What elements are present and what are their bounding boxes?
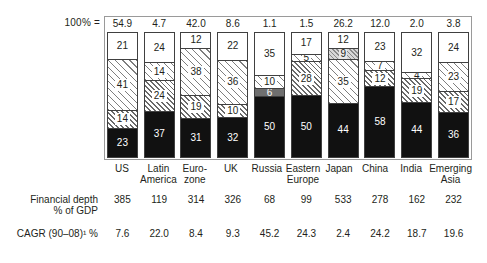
- category-label: Euro-zone: [177, 161, 213, 185]
- stacked-bar: 3241944: [401, 32, 432, 158]
- bar-segment-value: 7: [376, 62, 384, 71]
- bar-segment: 19: [402, 79, 431, 103]
- bar-segment: 7: [365, 62, 394, 71]
- cagr-value: 22.0: [141, 228, 178, 239]
- bar-segment: 38: [181, 49, 210, 96]
- category-label-line: Russia: [249, 163, 285, 174]
- category-label: China: [357, 161, 393, 185]
- bar-segment: 19: [181, 96, 210, 120]
- bar-segment-value: 23: [117, 138, 128, 148]
- bar-segment: 14: [145, 63, 174, 81]
- bar-segment-value: 38: [189, 67, 202, 77]
- financial-depth-value: 99: [288, 194, 325, 216]
- category-row: USLatinAmericaEuro-zoneUKRussiaEasternEu…: [0, 161, 487, 185]
- bar-segment-value: 12: [338, 35, 349, 45]
- cagr-label-line1: CAGR (90–08)¹ %: [0, 228, 98, 239]
- category-label-line: Eastern: [285, 163, 321, 174]
- data-table: USLatinAmericaEuro-zoneUKRussiaEasternEu…: [0, 161, 487, 239]
- financial-depth-label-line2: % of GDP: [0, 205, 98, 216]
- cagr-label: CAGR (90–08)¹ %: [0, 228, 104, 239]
- bar-segment: 32: [218, 118, 247, 157]
- bar-segment-value: 24: [448, 43, 459, 53]
- category-label-line: Emerging: [429, 163, 472, 174]
- bar-segment-value: 17: [301, 38, 312, 48]
- bar-column: 42.012381931: [178, 16, 215, 160]
- bar-total-value: 12.0: [370, 16, 389, 32]
- financial-depth-value: 232: [435, 194, 472, 216]
- category-label: Russia: [249, 161, 285, 185]
- category-label-line: Japan: [321, 163, 357, 174]
- bar-segment-value: 24: [154, 43, 165, 53]
- category-label-line: China: [357, 163, 393, 174]
- bar-segment: 23: [439, 63, 468, 92]
- bar-segment: 12: [181, 33, 210, 49]
- bar-column: 26.21293544: [325, 16, 362, 160]
- cagr-value: 24.3: [288, 228, 325, 239]
- bar-total-value: 26.2: [333, 16, 352, 32]
- financial-depth-value: 385: [104, 194, 141, 216]
- bar-segment: 44: [402, 103, 431, 157]
- stacked-bar: 21411423: [107, 32, 138, 158]
- stacked-bar: 3510650: [254, 32, 285, 158]
- bar-segment: 50: [292, 96, 321, 157]
- bar-column: 2.03241944: [398, 16, 435, 160]
- bar-segment-value: 58: [374, 117, 385, 127]
- category-label-line: Latin: [140, 163, 177, 174]
- bar-segment-value: 37: [154, 129, 165, 139]
- bar-segment-value: 19: [410, 86, 423, 96]
- financial-depth-value: 278: [362, 194, 399, 216]
- bar-total-value: 1.1: [263, 16, 277, 32]
- bar-segment-value: 44: [338, 125, 349, 135]
- bar-segment: 24: [145, 33, 174, 63]
- cagr-value: 8.4: [178, 228, 215, 239]
- bar-column: 1.13510650: [251, 16, 288, 160]
- bar-segment-value: 10: [226, 106, 239, 116]
- category-label: India: [393, 161, 429, 185]
- category-label-line: Euro-: [177, 163, 213, 174]
- stacked-bar: 24142437: [144, 32, 175, 158]
- bar-segment-value: 41: [116, 80, 129, 90]
- bar-segment-value: 12: [373, 74, 386, 84]
- bar-column: 54.921411423: [104, 16, 141, 160]
- bar-segment-value: 28: [300, 74, 313, 84]
- category-label: UK: [213, 161, 249, 185]
- category-row-label: [0, 161, 104, 185]
- axis-total-label: 100% =: [38, 17, 100, 28]
- cagr-value: 24.2: [362, 228, 399, 239]
- financial-depth-value: 68: [251, 194, 288, 216]
- cagr-value: 9.3: [214, 228, 251, 239]
- cagr-value: 19.6: [435, 228, 472, 239]
- stacked-bar-columns: 54.9214114234.72414243742.0123819318.622…: [104, 16, 472, 160]
- category-label: US: [104, 161, 140, 185]
- financial-depth-row: Financial depth % of GDP 385119314326689…: [0, 194, 487, 216]
- category-label-line: UK: [213, 163, 249, 174]
- bar-total-value: 3.8: [447, 16, 461, 32]
- category-label-line: America: [140, 174, 177, 185]
- category-label: EasternEurope: [285, 161, 321, 185]
- category-label-line: zone: [177, 174, 213, 185]
- bar-segment: 22: [218, 33, 247, 61]
- bar-segment-value: 31: [190, 133, 201, 143]
- financial-depth-value: 533: [325, 194, 362, 216]
- bar-segment-value: 9: [339, 49, 347, 59]
- bar-segment: 23: [108, 129, 137, 157]
- bar-segment-value: 12: [190, 35, 201, 45]
- bar-segment: 23: [365, 33, 394, 62]
- bar-total-value: 1.5: [299, 16, 313, 32]
- bar-segment-value: 22: [227, 41, 238, 51]
- financial-depth-value: 119: [141, 194, 178, 216]
- bar-total-value: 4.7: [152, 16, 166, 32]
- chart-root: 100% = 54.9214114234.72414243742.0123819…: [0, 0, 487, 263]
- bar-segment-value: 10: [263, 77, 276, 87]
- bar-segment: 36: [218, 61, 247, 106]
- stacked-bar: 1293544: [328, 32, 359, 158]
- bar-column: 1.51752850: [288, 16, 325, 160]
- category-label: LatinAmerica: [140, 161, 177, 185]
- category-label: EmergingAsia: [429, 161, 472, 185]
- bar-segment-value: 5: [303, 55, 311, 62]
- bar-segment: 28: [292, 62, 321, 97]
- bar-segment: 32: [402, 33, 431, 73]
- bar-segment: 9: [329, 49, 358, 61]
- bar-segment: 17: [292, 33, 321, 55]
- bar-segment-value: 14: [153, 67, 166, 77]
